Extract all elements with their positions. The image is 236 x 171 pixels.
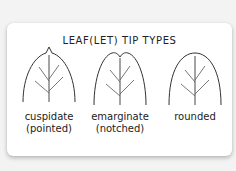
rounded-leaf-icon (165, 50, 225, 106)
rounded-label: rounded (160, 111, 230, 123)
diagram-title: LEAF(LET) TIP TYPES (7, 35, 232, 46)
cuspidate-label: cuspidate (pointed) (14, 111, 84, 135)
emarginate-label: emarginate (notched) (85, 111, 155, 135)
emarginate-leaf-icon (90, 50, 150, 106)
leaf-tip-types-card: LEAF(LET) TIP TYPES cuspidate (pointed) … (7, 23, 232, 156)
cuspidate-leaf-icon (19, 47, 79, 103)
